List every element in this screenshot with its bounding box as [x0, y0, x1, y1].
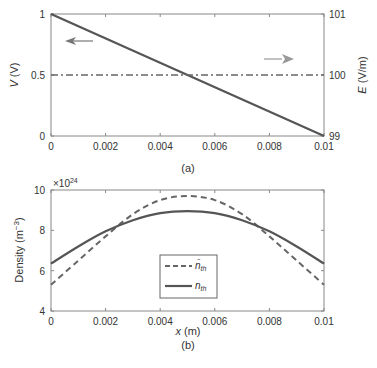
legend: n̄th nth — [160, 255, 217, 298]
y-multiplier: ×1024 — [53, 177, 78, 189]
y-tick-label: 0 — [39, 131, 45, 142]
y-right-tick-label: 99 — [329, 131, 341, 142]
x-tick-label: 0 — [48, 316, 54, 327]
panel-a-chart: 00.0020.0040.0060.0080.01 00.51 99100101… — [8, 9, 368, 174]
y-tick-label: 1 — [39, 9, 45, 20]
panel-b-y-axis-label: Density (m−3) — [12, 217, 25, 282]
panel-a-x-ticks: 00.0020.0040.0060.0080.01 — [48, 14, 334, 152]
panel-b-x-axis-label: x (m) — [174, 325, 200, 337]
x-tick-label: 0 — [48, 141, 54, 152]
y-right-tick-label: 100 — [329, 70, 346, 81]
y-tick-label: 10 — [34, 185, 46, 196]
x-tick-label: 0.002 — [93, 316, 118, 327]
panel-a-y-axis-label: V (V) — [8, 62, 20, 87]
x-tick-label: 0.008 — [257, 141, 282, 152]
panel-b-chart: 00.0020.0040.0060.0080.01 46810 ×1024 De… — [12, 177, 334, 351]
y-right-tick-label: 101 — [329, 9, 346, 20]
panel-a-y-ticks-right: 99100101 — [321, 9, 346, 142]
x-tick-label: 0.008 — [257, 316, 282, 327]
left-arrow-icon — [65, 37, 93, 45]
x-tick-label: 0.006 — [202, 316, 227, 327]
y-tick-label: 8 — [39, 225, 45, 236]
x-tick-label: 0.01 — [314, 316, 334, 327]
y-tick-label: 0.5 — [31, 70, 45, 81]
x-tick-label: 0.004 — [148, 316, 173, 327]
panel-a-y-right-axis-label: E (V/m) — [356, 56, 368, 93]
panel-b-label: (b) — [181, 339, 194, 351]
x-tick-label: 0.006 — [202, 141, 227, 152]
figure: 00.0020.0040.0060.0080.01 00.51 99100101… — [0, 0, 377, 368]
y-tick-label: 4 — [39, 306, 45, 317]
y-tick-label: 6 — [39, 266, 45, 277]
right-arrow-icon — [264, 54, 294, 64]
panel-a-label: (a) — [181, 162, 194, 174]
x-tick-label: 0.01 — [314, 141, 334, 152]
x-tick-label: 0.002 — [93, 141, 118, 152]
x-tick-label: 0.004 — [148, 141, 173, 152]
